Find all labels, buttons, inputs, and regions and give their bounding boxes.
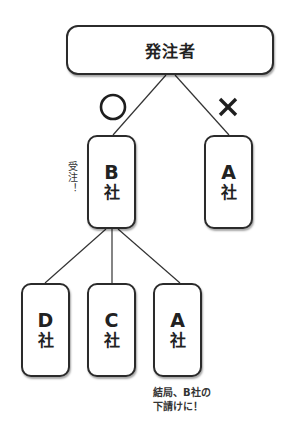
connector-root-to-b	[113, 75, 166, 135]
company-b-letter: B	[104, 162, 118, 183]
company-b-box: B 社	[87, 135, 136, 229]
company-d-suffix: 社	[38, 331, 54, 351]
company-d-letter: D	[38, 310, 54, 331]
order-received-note: 受注！	[67, 161, 79, 194]
company-a-subcontractor-box: A 社	[153, 283, 202, 377]
circle-accepted-icon	[101, 95, 125, 119]
connector-b-to-a2	[118, 229, 180, 283]
company-a2-letter: A	[170, 310, 185, 331]
company-c-suffix: 社	[104, 331, 120, 351]
org-diagram: 発注者 B 社 A 社 受注！ D 社 C 社 A 社 結局、B社の 下請けに！	[0, 0, 293, 430]
connector-root-to-a	[175, 75, 229, 135]
outcome-note: 結局、B社の 下請けに！	[153, 386, 211, 414]
company-a-suffix: 社	[221, 183, 237, 203]
company-b-suffix: 社	[104, 183, 120, 203]
outcome-note-line2: 下請けに！	[153, 401, 203, 412]
company-a2-suffix: 社	[170, 331, 186, 351]
outcome-note-line1: 結局、B社の	[153, 387, 211, 398]
connector-b-to-d	[45, 229, 106, 283]
company-a-box: A 社	[204, 135, 253, 229]
company-c-box: C 社	[87, 283, 136, 377]
company-d-box: D 社	[21, 283, 70, 377]
cross-rejected-icon	[220, 99, 236, 115]
company-c-letter: C	[105, 310, 119, 331]
company-a-letter: A	[221, 162, 236, 183]
client-label: 発注者	[145, 38, 196, 62]
client-box: 発注者	[66, 25, 274, 75]
